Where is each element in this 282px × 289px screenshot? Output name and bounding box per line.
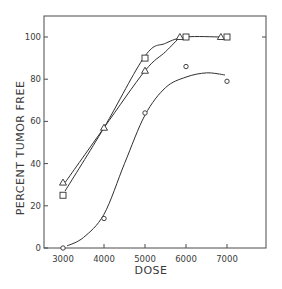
circle-marker	[102, 216, 106, 220]
square-marker	[142, 55, 148, 61]
x-tick-label: 6000	[175, 254, 197, 264]
x-tick-label: 4000	[93, 254, 115, 264]
y-tick-label: 40	[30, 159, 41, 169]
square-marker	[60, 192, 66, 198]
y-axis-title: PERCENT TUMOR FREE	[14, 81, 27, 216]
dose-response-chart: 020406080100 30004000500060007000 DOSE P…	[0, 0, 282, 289]
circle-marker	[184, 64, 188, 68]
square-marker	[224, 34, 230, 40]
circle-marker	[143, 111, 147, 115]
triangle-marker	[176, 34, 183, 40]
triangle-fit-curve	[65, 37, 180, 183]
circle-marker	[61, 246, 65, 250]
y-tick-label: 100	[25, 32, 41, 42]
data-markers	[60, 34, 231, 251]
x-axis-ticks: 30004000500060007000	[52, 244, 238, 264]
y-tick-label: 80	[30, 74, 41, 84]
x-tick-label: 7000	[216, 254, 238, 264]
x-axis-title: DOSE	[134, 264, 167, 277]
y-tick-label: 0	[36, 243, 41, 253]
circle-marker	[225, 79, 229, 83]
square-marker	[183, 34, 189, 40]
y-tick-label: 60	[30, 116, 41, 126]
y-tick-label: 20	[30, 201, 41, 211]
x-tick-label: 3000	[52, 254, 74, 264]
x-tick-label: 5000	[134, 254, 156, 264]
circle-fit-curve	[67, 73, 225, 246]
plot-border	[44, 16, 266, 248]
y-axis-ticks: 020406080100	[25, 32, 48, 253]
plot-frame	[44, 16, 266, 248]
